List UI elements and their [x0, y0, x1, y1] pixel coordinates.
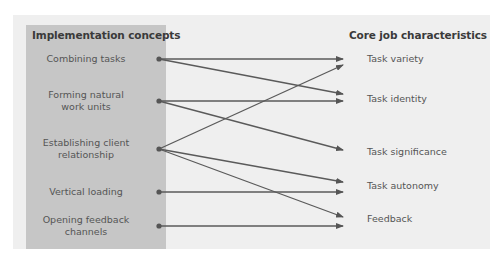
arrow-combining-to-identity [159, 59, 343, 94]
arrow-establishing-to-variety [159, 65, 343, 149]
arrow-establishing-to-autonomy [159, 149, 343, 182]
dot-establishing [156, 146, 161, 151]
dot-combining [156, 56, 161, 61]
connection-arrows [0, 0, 500, 268]
dot-opening [156, 223, 161, 228]
arrow-establishing-to-feedback [159, 149, 343, 217]
arrow-forming-to-significance [159, 101, 343, 150]
dot-vertical [156, 189, 161, 194]
dot-forming [156, 98, 161, 103]
